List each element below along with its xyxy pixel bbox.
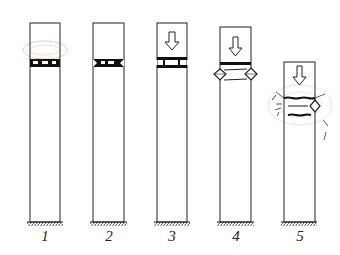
column-5 — [268, 62, 332, 226]
load-arrow-icon — [293, 66, 306, 85]
stage-label-3: 3 — [157, 228, 187, 245]
column-4 — [214, 27, 257, 226]
load-arrow-icon — [229, 37, 242, 56]
stage-label-5: 5 — [285, 228, 315, 245]
column-1 — [23, 23, 67, 226]
load-arrow-icon — [165, 32, 179, 50]
column-2 — [90, 23, 127, 226]
column-3 — [154, 23, 190, 226]
stage-label-4: 4 — [221, 228, 251, 245]
diagram-canvas — [0, 0, 340, 255]
stage-label-2: 2 — [94, 228, 124, 245]
stage-label-1: 1 — [30, 228, 60, 245]
